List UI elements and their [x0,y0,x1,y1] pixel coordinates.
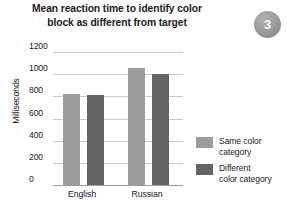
legend-item-different-color: Different color category [196,163,286,184]
legend-label-same-line1: Same color [219,136,286,147]
bar-english-different-color [87,95,104,185]
x-tick-label-english: English [53,189,111,199]
y-tick-label: 1000 [29,63,53,73]
legend-label-different-line1: Different [219,163,286,174]
legend-swatch-different-icon [196,164,213,175]
slide-number-badge: 3 [254,11,281,38]
bar-english-same-color [63,94,80,185]
chart-title: Mean reaction time to identify color blo… [14,2,220,29]
y-tick-label: 600 [29,108,53,118]
y-tick-label: 200 [29,152,53,162]
chart-figure: Mean reaction time to identify color blo… [0,0,287,223]
chart-title-line-1: Mean reaction time to identify color [14,2,220,16]
x-tick-label-russian: Russian [118,189,176,199]
legend-label-different-line2: color category [219,174,286,185]
chart-title-line-2: block as different from target [14,16,220,30]
plot-area [53,52,183,185]
axis-baseline [53,185,183,186]
y-axis-title: Milliseconds [11,62,21,140]
gridline [53,52,183,53]
legend-item-same-color: Same color category [196,136,286,157]
y-axis-tick-labels: 1200 1000 800 600 400 200 0 [29,52,53,185]
y-tick-label: 0 [29,174,53,184]
chart-legend: Same color category Different color cate… [196,136,286,190]
bar-russian-different-color [152,74,169,185]
y-tick-label: 800 [29,85,53,95]
y-tick-label: 1200 [29,41,53,51]
legend-swatch-same-icon [196,137,213,148]
y-tick-label: 400 [29,130,53,140]
legend-label-same-line2: category [219,147,286,158]
bar-russian-same-color [128,68,145,185]
